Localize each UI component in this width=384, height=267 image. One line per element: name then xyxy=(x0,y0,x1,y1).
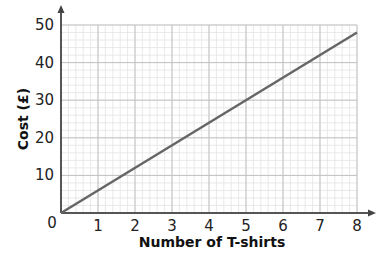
svg-text:2: 2 xyxy=(130,217,140,235)
svg-text:50: 50 xyxy=(35,16,54,34)
y-axis-title: Cost (£) xyxy=(15,88,31,150)
svg-text:10: 10 xyxy=(35,166,54,184)
origin-label: 0 xyxy=(47,214,57,232)
svg-text:30: 30 xyxy=(35,91,54,109)
svg-text:3: 3 xyxy=(167,217,177,235)
x-tick-labels: 12345678 xyxy=(93,217,362,235)
svg-text:4: 4 xyxy=(204,217,214,235)
svg-text:8: 8 xyxy=(352,217,362,235)
x-axis-title: Number of T-shirts xyxy=(139,234,285,250)
y-tick-labels: 1020304050 xyxy=(35,16,54,184)
svg-text:5: 5 xyxy=(241,217,251,235)
svg-text:6: 6 xyxy=(278,217,288,235)
svg-text:20: 20 xyxy=(35,129,54,147)
chart: 12345678 1020304050 0 Number of T-shirts… xyxy=(0,0,384,267)
svg-text:7: 7 xyxy=(315,217,325,235)
svg-text:1: 1 xyxy=(93,217,103,235)
svg-text:40: 40 xyxy=(35,54,54,72)
